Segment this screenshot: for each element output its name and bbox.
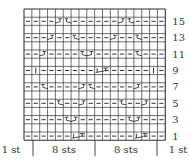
- stitch-count-label: 1 st: [169, 144, 188, 155]
- right-twist-symbol: [65, 19, 72, 23]
- left-twist-symbol: [86, 52, 93, 56]
- right-twist-symbol: [120, 101, 127, 105]
- right-twist-symbol: [57, 101, 64, 105]
- left-twist-symbol: [78, 101, 85, 105]
- stitch-count-label: 8 sts: [114, 144, 138, 155]
- right-twist-symbol: [128, 19, 135, 23]
- row-number-label: 3: [172, 114, 178, 125]
- row-number-label: 7: [172, 81, 178, 92]
- row-labels: 13579111315: [172, 16, 185, 142]
- bottom-labels: 1 st8 sts8 sts1 st: [2, 140, 188, 156]
- right-twist-symbol: [73, 35, 80, 39]
- left-twist-symbol: [39, 52, 46, 56]
- left-twist-symbol: [133, 117, 140, 121]
- knitting-chart: 13579111315 1 st8 sts8 sts1 st: [0, 0, 189, 168]
- row-number-label: 11: [172, 49, 185, 60]
- row-number-label: 5: [172, 98, 178, 109]
- stitch-count-label: 1 st: [2, 144, 21, 155]
- right-twist-symbol: [88, 84, 95, 88]
- left-twist-symbol: [55, 19, 62, 23]
- left-twist-symbol: [118, 19, 125, 23]
- right-twist-symbol: [128, 117, 135, 121]
- right-twist-symbol: [65, 117, 72, 121]
- row-number-label: 9: [172, 65, 178, 76]
- row-number-label: 15: [172, 16, 185, 27]
- left-twist-symbol: [133, 84, 140, 88]
- row-number-label: 13: [172, 32, 185, 43]
- right-twist-symbol: [41, 84, 48, 88]
- left-twist-symbol: [47, 35, 54, 39]
- left-twist-symbol: [141, 101, 148, 105]
- left-twist-symbol: [78, 84, 85, 88]
- stitch-count-label: 8 sts: [52, 144, 76, 155]
- row-number-label: 1: [172, 131, 178, 142]
- right-twist-symbol: [80, 52, 87, 56]
- left-twist-symbol: [71, 117, 78, 121]
- right-twist-symbol: [135, 52, 142, 56]
- chart-grid: [24, 9, 165, 140]
- left-twist-symbol: [110, 35, 117, 39]
- right-twist-symbol: [135, 35, 142, 39]
